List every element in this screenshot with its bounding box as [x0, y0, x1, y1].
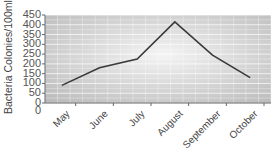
line-chart: Bacteria Colonies/100ml 0501001502002503… — [0, 0, 276, 156]
y-tick-label-extra: 0 — [15, 104, 41, 116]
y-tick-label: 450 — [15, 8, 41, 20]
y-axis-label: Bacteria Colonies/100ml — [2, 0, 14, 114]
